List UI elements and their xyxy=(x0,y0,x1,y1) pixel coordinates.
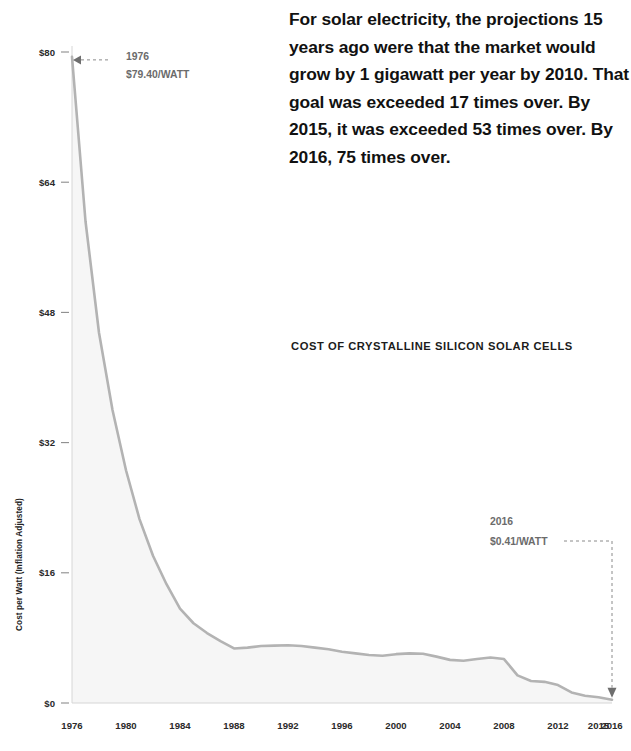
end-callout-value: $0.41/WATT xyxy=(490,536,548,547)
x-tick-group: 1976198019841988199219962000200420082012… xyxy=(61,720,622,731)
x-tick-label: 2008 xyxy=(493,720,515,731)
infographic-root: For solar electricity, the projections 1… xyxy=(0,0,631,751)
callout-start-group: 1976 $79.40/WATT xyxy=(73,51,190,80)
y-tick-label: $48 xyxy=(39,307,56,318)
x-tick-label: 1988 xyxy=(223,720,245,731)
end-callout-arrow-icon xyxy=(608,688,617,698)
start-callout-year: 1976 xyxy=(126,51,149,62)
x-tick-label: 1996 xyxy=(331,720,352,731)
y-tick-label: $16 xyxy=(39,567,55,578)
start-callout-value: $79.40/WATT xyxy=(126,69,190,80)
x-tick-label: 1976 xyxy=(61,720,82,731)
x-tick-label: 2012 xyxy=(547,720,568,731)
y-tick-group: $0$16$32$48$64$80 xyxy=(39,47,69,709)
x-tick-label: 2000 xyxy=(385,720,406,731)
y-tick-label: $0 xyxy=(44,698,55,709)
end-callout-year: 2016 xyxy=(490,516,513,527)
x-tick-label: 2016 xyxy=(601,720,622,731)
x-tick-label: 2004 xyxy=(439,720,461,731)
series-area-fill xyxy=(72,57,612,703)
x-tick-label: 1984 xyxy=(169,720,191,731)
x-tick-label: 1980 xyxy=(115,720,136,731)
x-tick-label: 1992 xyxy=(277,720,298,731)
end-callout-leader-line xyxy=(564,541,612,688)
y-tick-label: $64 xyxy=(39,177,56,188)
y-tick-label: $32 xyxy=(39,437,55,448)
y-tick-label: $80 xyxy=(39,47,55,58)
start-callout-arrow-icon xyxy=(73,55,81,64)
solar-cost-area-chart: $0$16$32$48$64$80 1976198019841988199219… xyxy=(0,0,631,751)
chart-area-fill-group xyxy=(72,57,612,703)
